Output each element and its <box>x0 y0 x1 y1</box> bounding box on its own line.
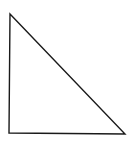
diagram-canvas <box>0 0 136 150</box>
right-triangle-shape <box>9 14 125 134</box>
triangle-figure <box>0 0 136 150</box>
